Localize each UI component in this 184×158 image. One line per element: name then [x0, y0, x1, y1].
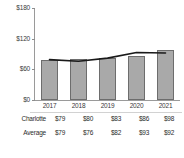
- cell-average-2021: $92: [155, 126, 183, 140]
- x-tick-label-2018: 2018: [65, 102, 93, 109]
- chart-plot-area: $0$60$120$180 20172018201920202021: [0, 0, 184, 112]
- table-row: Charlotte $79 $80 $83 $86 $98: [0, 112, 184, 126]
- table-row: Average $79 $76 $82 $93 $92: [0, 126, 184, 140]
- x-tick-label-2017: 2017: [36, 102, 64, 109]
- cell-average-2017: $79: [46, 126, 74, 140]
- y-tick-label: $60: [4, 65, 30, 72]
- data-table: Charlotte $79 $80 $83 $86 $98 Average $7…: [0, 112, 184, 140]
- row-label-charlotte: Charlotte: [0, 112, 46, 126]
- cell-charlotte-2017: $79: [46, 112, 74, 126]
- cell-charlotte-2018: $80: [74, 112, 102, 126]
- cell-charlotte-2021: $98: [155, 112, 183, 126]
- x-tick-label-2020: 2020: [123, 102, 151, 109]
- x-tick-label-2021: 2021: [152, 102, 180, 109]
- y-tick-label: $0: [4, 96, 30, 103]
- cell-average-2019: $82: [102, 126, 130, 140]
- y-tick-mark: [32, 100, 35, 101]
- cell-charlotte-2020: $86: [130, 112, 158, 126]
- x-axis-line: [34, 100, 180, 101]
- y-tick-label: $180: [4, 4, 30, 11]
- cell-average-2018: $76: [74, 126, 102, 140]
- cell-average-2020: $93: [130, 126, 158, 140]
- series-container: [35, 8, 180, 100]
- line-series-average: [35, 8, 180, 100]
- cell-charlotte-2019: $83: [102, 112, 130, 126]
- row-label-average: Average: [0, 126, 46, 140]
- x-tick-label-2019: 2019: [94, 102, 122, 109]
- y-tick-label: $120: [4, 35, 30, 42]
- average-polyline: [50, 53, 166, 62]
- chart-figure: $0$60$120$180 20172018201920202021 Charl…: [0, 0, 184, 158]
